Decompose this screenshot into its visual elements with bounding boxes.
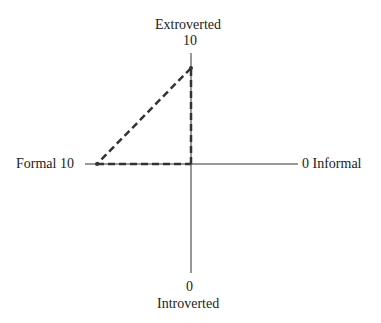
top-axis-value: 10 [183, 33, 197, 49]
right-axis-label: 0 Informal [302, 156, 361, 172]
vertex-formal [95, 162, 99, 166]
vertex-extroverted [189, 66, 193, 70]
dashed-triangle [97, 68, 191, 164]
bottom-axis-value: 0 [186, 279, 193, 295]
bottom-axis-label: Introverted [157, 296, 219, 312]
top-axis-label: Extroverted [155, 17, 221, 33]
left-axis-label: Formal 10 [16, 156, 74, 172]
